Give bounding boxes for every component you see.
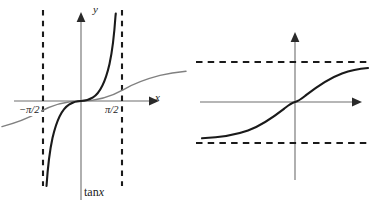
tick-label-pos-half-pi: π/2	[104, 105, 119, 116]
arctan-curve	[202, 68, 368, 138]
panel-tan: y x −π/2 π/2 tanx	[0, 0, 188, 214]
tan-curve-branch-left	[47, 101, 82, 186]
caption-tan-variable: x	[99, 185, 104, 199]
y-axis-tan	[77, 12, 86, 200]
figure-tan-and-arctan: y x −π/2 π/2 tanx	[0, 0, 376, 214]
tick-label-neg-half-pi: −π/2	[18, 105, 41, 116]
caption-tan: tanx	[0, 186, 188, 198]
x-axis-label-tan: x	[155, 92, 160, 103]
tan-curve-branch-right	[81, 14, 116, 102]
arctan-plot-graphic	[188, 0, 376, 214]
y-axis-arctan	[291, 32, 300, 180]
y-axis-label-tan: y	[93, 4, 98, 15]
panel-arctan: y x π/2 −π/2 tan−1x	[188, 0, 376, 214]
caption-tan-function: tan	[84, 185, 99, 199]
x-axis-arctan	[200, 98, 362, 107]
